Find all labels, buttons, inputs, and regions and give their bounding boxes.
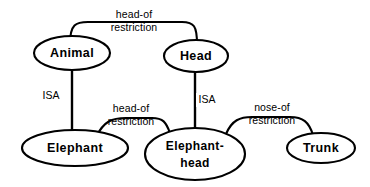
edge-label-elephanthead-trunk: nose-of restriction	[249, 101, 296, 126]
edge-label-elephanthead-trunk-line2: restriction	[249, 114, 296, 126]
diagram-canvas: Animal Head Elephant Elephant- head Trun…	[0, 0, 370, 187]
node-elephant-head-label-line2: head	[180, 156, 210, 170]
edge-label-elephant-elephanthead: head-of restriction	[108, 102, 155, 127]
edge-label-animal-elephant-isa-text: ISA	[42, 89, 59, 101]
node-trunk[interactable]: Trunk	[287, 133, 355, 163]
semantic-network-diagram: Animal Head Elephant Elephant- head Trun…	[0, 0, 370, 187]
node-elephant-head-shape	[145, 128, 245, 180]
node-elephant-head[interactable]: Elephant- head	[145, 128, 245, 180]
node-trunk-label: Trunk	[303, 141, 339, 155]
node-elephant[interactable]: Elephant	[22, 130, 128, 166]
edge-label-elephanthead-trunk-line1: nose-of	[254, 101, 290, 113]
edge-label-head-elephanthead-isa-text: ISA	[198, 93, 215, 105]
edge-label-elephant-elephanthead-line2: restriction	[108, 115, 155, 127]
node-elephant-label: Elephant	[47, 141, 103, 155]
edge-label-animal-head-line1: head-of	[116, 8, 152, 20]
node-animal[interactable]: Animal	[34, 36, 110, 70]
edge-label-animal-elephant-isa: ISA	[40, 89, 62, 103]
edge-label-head-elephanthead-isa: ISA	[196, 93, 218, 107]
node-elephant-head-label-line1: Elephant-	[166, 139, 224, 153]
node-animal-label: Animal	[50, 46, 94, 60]
edge-label-elephant-elephanthead-line1: head-of	[113, 102, 149, 114]
edge-label-animal-head-line2: restriction	[111, 21, 158, 33]
edge-label-animal-head: head-of restriction	[111, 8, 158, 33]
node-head[interactable]: Head	[164, 40, 228, 72]
node-head-label: Head	[180, 49, 212, 63]
